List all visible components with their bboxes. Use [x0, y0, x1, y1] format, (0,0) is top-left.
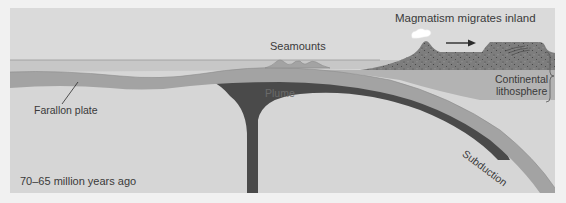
label-plume: Plume — [265, 88, 295, 100]
label-magmatism: Magmatism migrates inland — [395, 12, 536, 25]
label-continental-line2: lithosphere — [495, 86, 548, 98]
label-continental-line1: Continental — [495, 74, 548, 86]
label-seamounts: Seamounts — [270, 40, 326, 52]
label-continental-lithosphere: Continental lithosphere — [495, 74, 548, 97]
time-period-label: 70–65 million years ago — [20, 175, 136, 187]
label-farallon-plate: Farallon plate — [34, 105, 98, 117]
